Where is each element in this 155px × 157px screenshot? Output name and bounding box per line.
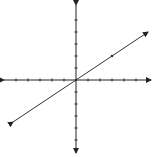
series-line — [13, 32, 148, 122]
data-point — [75, 79, 78, 82]
data-point — [111, 55, 114, 58]
coordinate-plane — [0, 0, 155, 157]
